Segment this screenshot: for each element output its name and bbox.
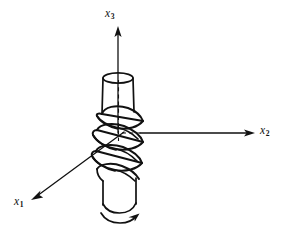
shaft-lower-segment [103, 178, 136, 213]
axis-x2 [140, 129, 255, 136]
axis-label-x3: x3 [105, 8, 114, 20]
axis-label-x2-base: x [260, 124, 265, 136]
torque-arc-path [101, 213, 136, 223]
axis-label-x3-subscript: 3 [111, 12, 115, 21]
helix-fold-1-lower-edge [97, 114, 143, 129]
axis-label-x1-subscript: 1 [20, 200, 24, 209]
axis-label-x1-base: x [14, 195, 19, 207]
helix-fold-1-upper-edge [102, 106, 143, 121]
torque-arc-arrow [101, 213, 140, 223]
figure-canvas [0, 0, 282, 236]
axis-label-x2: x2 [260, 125, 269, 137]
torsional-buckling-figure: x3 x2 x1 [0, 0, 282, 236]
helix-tail-left-edge [97, 169, 103, 181]
axis-label-x3-base: x [105, 7, 110, 19]
axis-label-x1: x1 [14, 196, 23, 208]
axis-x1 [31, 132, 124, 200]
axis-label-x2-subscript: 2 [266, 129, 270, 138]
shaft-bottom-arc [103, 203, 136, 213]
shaft-upper-left-edge [102, 78, 103, 114]
shaft-upper-right-edge [133, 78, 134, 112]
shaft-buckled-helix [92, 106, 143, 181]
